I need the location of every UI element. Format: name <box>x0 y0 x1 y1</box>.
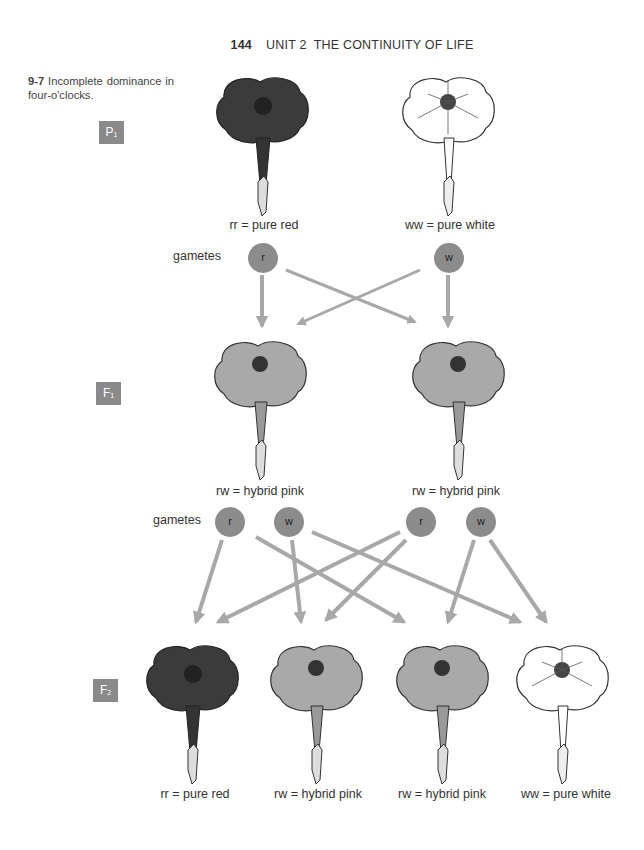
flower-red-f2 <box>142 640 246 790</box>
flower-pink-f1-right <box>408 336 512 486</box>
label-f2-pink-a: rw = hybrid pink <box>256 787 380 801</box>
generation-badge-p1: P1 <box>99 121 124 144</box>
generation-badge-f1: F1 <box>96 382 121 405</box>
label-p1-red: rr = pure red <box>204 218 324 232</box>
gamete-f1-r-left: r <box>215 507 245 537</box>
gamete-f1-w-right: w <box>466 507 496 537</box>
flower-pink-f1-left <box>210 336 314 486</box>
flower-red-p1 <box>212 72 314 222</box>
running-title: UNIT 2 THE CONTINUITY OF LIFE <box>266 38 473 52</box>
label-p1-white: ww = pure white <box>388 218 512 232</box>
flower-white-p1 <box>398 72 500 222</box>
flower-white-f2 <box>512 640 616 790</box>
page-header: 144UNIT 2 THE CONTINUITY OF LIFE <box>0 38 644 52</box>
gamete-p1-w: w <box>434 243 464 273</box>
generation-badge-f2: F2 <box>93 679 118 702</box>
label-f1-right: rw = hybrid pink <box>394 484 518 498</box>
flower-pink-f2-b <box>392 640 496 790</box>
label-f2-white: ww = pure white <box>506 787 626 801</box>
gametes-label-f1: gametes <box>153 513 201 527</box>
gamete-p1-r: r <box>248 243 278 273</box>
page-number: 144 <box>231 38 252 52</box>
gamete-f1-r-right: r <box>406 507 436 537</box>
flower-pink-f2-a <box>266 640 370 790</box>
gametes-label-p1: gametes <box>173 249 221 263</box>
label-f2-pink-b: rw = hybrid pink <box>380 787 504 801</box>
figure-caption: 9-7 Incomplete dominance in four-o'clock… <box>28 74 174 102</box>
gamete-f1-w-left: w <box>274 507 304 537</box>
caption-text: Incomplete dominance in four-o'clocks. <box>28 75 174 101</box>
figure-number: 9-7 <box>28 75 44 87</box>
label-f1-left: rw = hybrid pink <box>198 484 322 498</box>
label-f2-red: rr = pure red <box>140 787 250 801</box>
